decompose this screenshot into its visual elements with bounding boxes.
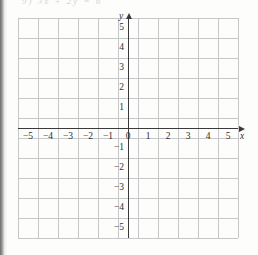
x-tick-label: 2 [158, 132, 178, 142]
cropped-problem-text: 9) 3x + 2y = 6 [22, 0, 142, 6]
scan-page-edge-highlight [4, 0, 7, 255]
y-tick-label: −4 [106, 203, 124, 213]
arrow-up-icon [126, 13, 132, 19]
worksheet-page: 9) 3x + 2y = 6 −5−4−3−2−101234554321−1−2… [0, 0, 258, 255]
y-tick-label: −5 [106, 223, 124, 233]
y-axis-line [128, 18, 129, 238]
y-tick-label: 5 [106, 23, 124, 33]
x-tick-label: 4 [198, 132, 218, 142]
x-tick-label: −2 [78, 132, 98, 142]
y-tick-label: −1 [106, 143, 124, 153]
y-tick-label: 2 [106, 83, 124, 93]
x-tick-label: 1 [138, 132, 158, 142]
y-tick-label: 4 [106, 43, 124, 53]
y-tick-label: 3 [106, 63, 124, 73]
y-tick-label: 1 [106, 103, 124, 113]
y-axis-label: y [119, 12, 123, 22]
origin-label: 0 [118, 132, 138, 142]
x-tick-label: 5 [218, 132, 238, 142]
gridline-horizontal [18, 238, 238, 239]
y-tick-label: −3 [106, 183, 124, 193]
x-tick-label: −1 [98, 132, 118, 142]
x-tick-label: −3 [58, 132, 78, 142]
coordinate-plane: −5−4−3−2−101234554321−1−2−3−4−5 x y [18, 18, 238, 238]
x-tick-label: −4 [38, 132, 58, 142]
x-tick-label: −5 [18, 132, 38, 142]
x-tick-label: 3 [178, 132, 198, 142]
y-tick-label: −2 [106, 163, 124, 173]
x-axis-label: x [240, 132, 244, 142]
